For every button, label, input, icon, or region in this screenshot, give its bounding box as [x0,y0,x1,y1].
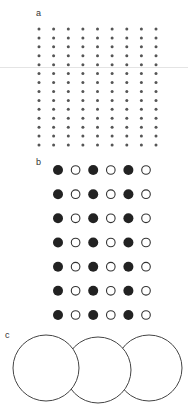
circle-1 [13,335,79,401]
overlapping-circles-c [0,0,188,418]
